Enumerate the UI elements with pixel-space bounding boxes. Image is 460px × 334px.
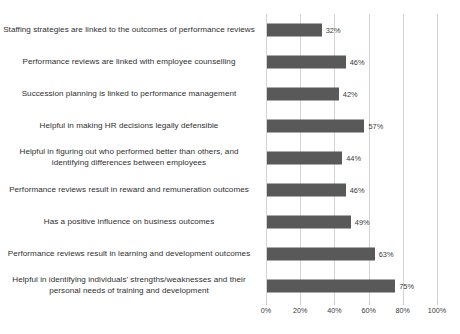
bar (267, 152, 342, 165)
category-label: Performance reviews result in learning a… (0, 249, 258, 260)
bar (267, 216, 351, 229)
bar (267, 24, 322, 37)
gridline (437, 14, 438, 302)
category-axis-labels: Staffing strategies are linked to the ou… (0, 14, 262, 302)
bar-value-label: 49% (355, 218, 370, 227)
tick-mark (300, 302, 301, 305)
tick-mark (369, 302, 370, 305)
category-label: Helpful in making HR decisions legally d… (0, 121, 258, 132)
tick-label: 0% (261, 306, 271, 315)
bar (267, 248, 375, 261)
bar-value-label: 63% (379, 250, 394, 259)
bar (267, 184, 346, 197)
category-label: Staffing strategies are linked to the ou… (0, 25, 258, 36)
figure-caption-clipped (0, 324, 460, 334)
bar (267, 88, 339, 101)
tick-label: 20% (293, 306, 307, 315)
bar-value-label: 75% (399, 282, 414, 291)
bar-value-label: 46% (350, 58, 365, 67)
plot-area: 32%46%42%57%44%46%49%63%75% (266, 14, 437, 302)
category-label: Helpful in identifying individuals' stre… (0, 275, 258, 296)
tick-mark (403, 302, 404, 305)
bar-value-label: 32% (326, 26, 341, 35)
tick-label: 60% (361, 306, 375, 315)
category-label: Succession planning is linked to perform… (0, 89, 258, 100)
tick-label: 40% (327, 306, 341, 315)
tick-label: 80% (396, 306, 410, 315)
category-label: Helpful in figuring out who performed be… (0, 147, 258, 168)
bar (267, 120, 364, 133)
tick-label: 100% (428, 306, 446, 315)
value-axis-ticks: 0%20%40%60%80%100% (266, 302, 437, 316)
tick-mark (334, 302, 335, 305)
bar-chart: Staffing strategies are linked to the ou… (0, 0, 460, 334)
category-label: Performance reviews are linked with empl… (0, 57, 258, 68)
gridline (403, 14, 404, 302)
bar-value-label: 44% (346, 154, 361, 163)
bar-value-label: 46% (350, 186, 365, 195)
tick-mark (266, 302, 267, 305)
category-label: Performance reviews result in reward and… (0, 185, 258, 196)
category-label: Has a positive influence on business out… (0, 217, 258, 228)
bar (267, 56, 346, 69)
bar-value-label: 57% (368, 122, 383, 131)
bar (267, 280, 395, 293)
tick-mark (437, 302, 438, 305)
bar-value-label: 42% (343, 90, 358, 99)
